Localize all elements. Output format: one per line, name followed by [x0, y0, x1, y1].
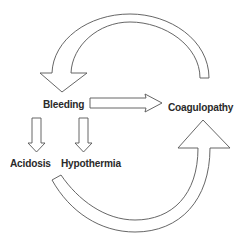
node-bleeding: Bleeding [43, 98, 84, 110]
curved-arrow-coagulopathy-to-bleeding [40, 14, 209, 92]
node-hypothermia: Hypothermia [61, 157, 121, 169]
node-acidosis: Acidosis [10, 157, 51, 169]
arrow-bleeding-to-acidosis [28, 118, 45, 152]
arrow-bleeding-to-coagulopathy [90, 94, 162, 112]
diagram-canvas [0, 0, 242, 240]
node-coagulopathy: Coagulopathy [168, 101, 233, 113]
arrow-bleeding-to-hypothermia [75, 118, 92, 152]
